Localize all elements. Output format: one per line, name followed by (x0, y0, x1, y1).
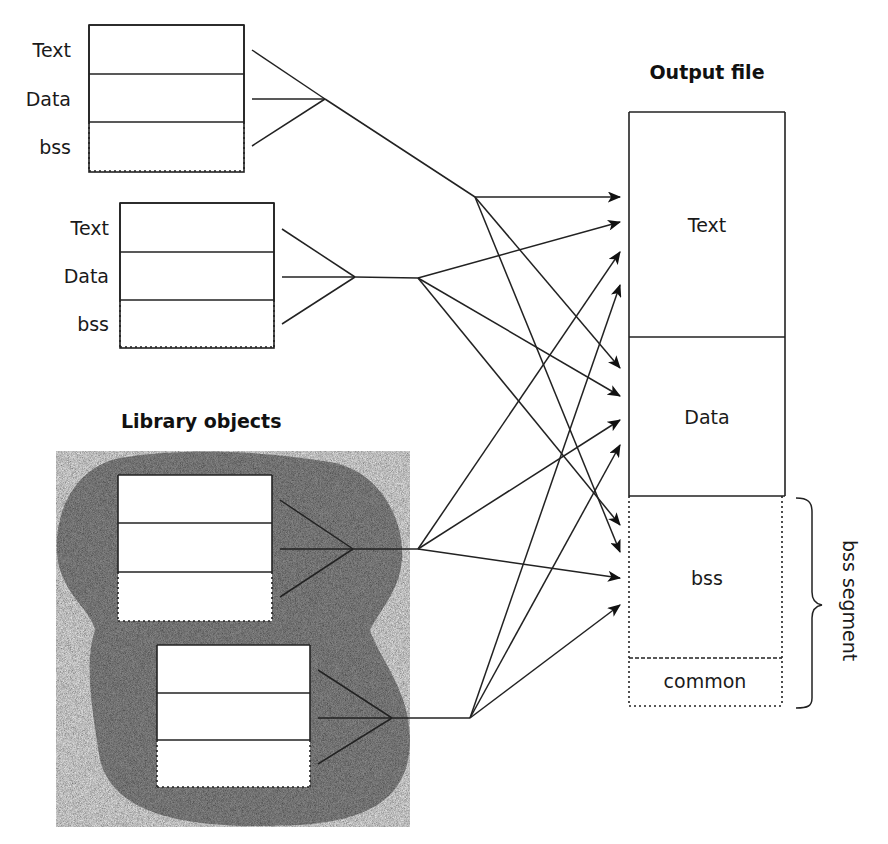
bss-segment-brace (796, 498, 822, 708)
object2-data-label: Data (64, 265, 109, 287)
library-object-1 (118, 475, 272, 621)
object1-merge-lines (252, 50, 475, 197)
object2-merge-lines (282, 229, 418, 324)
object2-text-label: Text (70, 217, 109, 239)
object1-text-label: Text (32, 39, 71, 61)
output-text-section: Text (687, 214, 726, 236)
library-object-2 (157, 645, 310, 787)
library-objects-title: Library objects (121, 410, 282, 432)
output-data-section: Data (684, 406, 729, 428)
object2-bss-label: bss (77, 313, 109, 335)
output-bss-section: bss (691, 567, 723, 589)
object-file-1: Text Data bss (26, 25, 244, 172)
bss-segment-label: bss segment (839, 540, 861, 661)
fanout-arrows (418, 197, 620, 718)
output-file: Text Data bss common (629, 112, 785, 706)
object-file-2: Text Data bss (64, 203, 274, 348)
object1-data-label: Data (26, 88, 71, 110)
output-common-section: common (664, 670, 747, 692)
output-file-title: Output file (649, 61, 764, 83)
linker-diagram: Text Data bss Text Data bss Library obje… (0, 0, 888, 844)
object1-bss-label: bss (39, 136, 71, 158)
